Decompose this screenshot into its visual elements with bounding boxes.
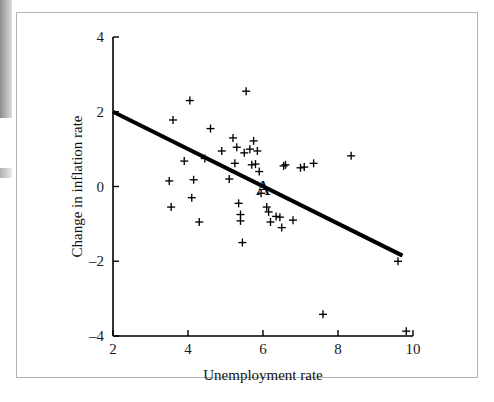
data-points	[165, 87, 410, 335]
data-point-marker	[300, 163, 308, 171]
data-point-marker	[190, 176, 198, 184]
data-point-marker	[252, 160, 260, 168]
data-point-marker	[229, 134, 237, 142]
data-point-marker	[231, 159, 239, 167]
figure-page: 246810–4–2024 A Unemployment rateChange …	[0, 0, 494, 402]
data-point-marker	[263, 203, 271, 211]
data-point-marker	[248, 161, 256, 169]
x-tick-label: 2	[109, 341, 117, 357]
data-point-marker	[167, 203, 175, 211]
x-tick-label: 6	[259, 341, 267, 357]
data-point-marker	[207, 125, 215, 133]
data-point-marker	[402, 327, 410, 335]
data-point-marker	[267, 218, 275, 226]
y-tick-label: 4	[97, 29, 105, 45]
data-point-marker	[242, 87, 250, 95]
y-tick-label: –2	[88, 253, 104, 269]
data-point-marker	[289, 216, 297, 224]
data-point-marker	[186, 97, 194, 105]
x-tick-label: 8	[334, 341, 342, 357]
x-axis-title: Unemployment rate	[203, 367, 323, 383]
data-point-marker	[188, 194, 196, 202]
data-point-marker	[235, 199, 243, 207]
data-point-marker	[282, 161, 290, 169]
data-point-marker	[237, 217, 245, 225]
scatter-plot: 246810–4–2024 A Unemployment rateChange …	[0, 0, 494, 402]
data-point-marker	[246, 145, 254, 153]
y-axis-title: Change in inflation rate	[69, 115, 85, 257]
data-point-marker	[250, 137, 258, 145]
point-annotations: A	[255, 176, 271, 200]
data-point-marker	[195, 218, 203, 226]
data-point-marker	[233, 143, 241, 151]
data-point-marker	[347, 152, 355, 160]
chart-canvas: 246810–4–2024 A Unemployment rateChange …	[0, 0, 494, 402]
x-tick-label: 4	[184, 341, 192, 357]
y-tick-label: –4	[88, 328, 105, 344]
data-point-marker	[165, 177, 173, 185]
data-point-marker	[265, 208, 273, 216]
data-point-marker	[218, 147, 226, 155]
data-point-marker	[238, 239, 246, 247]
tick-labels: 246810–4–2024	[88, 29, 421, 357]
data-point-marker	[297, 164, 305, 172]
y-tick-label: 2	[97, 104, 105, 120]
data-point-marker	[272, 212, 280, 220]
data-point-marker	[240, 149, 248, 157]
data-point-marker	[180, 157, 188, 165]
x-tick-label: 10	[406, 341, 421, 357]
data-point-marker	[310, 159, 318, 167]
data-point-marker	[278, 224, 286, 232]
data-point-marker	[255, 168, 263, 176]
data-point-marker	[276, 213, 284, 221]
data-point-marker	[225, 175, 233, 183]
data-point-marker	[169, 116, 177, 124]
data-point-marker	[319, 310, 327, 318]
data-point-marker	[253, 147, 261, 155]
data-point-marker	[394, 257, 402, 265]
annotation-label-a: A	[255, 176, 271, 200]
axis-titles: Unemployment rateChange in inflation rat…	[69, 115, 323, 383]
y-tick-label: 0	[97, 179, 105, 195]
data-point-marker	[280, 162, 288, 170]
